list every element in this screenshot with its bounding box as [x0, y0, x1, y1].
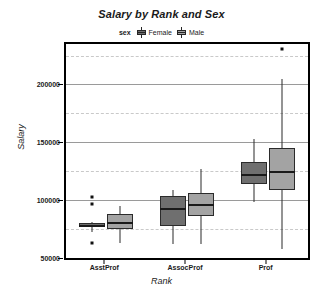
y-axis-tick-labels: 50000100000150000200000 [0, 42, 60, 260]
whisker-upper [281, 79, 282, 148]
whisker-lower [253, 184, 254, 203]
whisker-upper [201, 169, 202, 193]
y-tick-label: 150000 [4, 139, 60, 146]
y-tick-label: 200000 [4, 81, 60, 88]
legend-swatch-male [176, 27, 187, 38]
outlier-point [91, 241, 94, 244]
boxplot-female-assocprof [160, 44, 186, 258]
legend-title: sex [119, 29, 131, 36]
plot-panel [64, 42, 310, 260]
median-line [79, 225, 105, 227]
boxplot-male-prof [269, 44, 295, 258]
x-axis-tick-labels: AsstProfAssocProfProf [64, 264, 310, 276]
legend: sex Female Male [0, 27, 323, 38]
whisker-lower [173, 226, 174, 244]
boxplot-female-asstprof [79, 44, 105, 258]
boxplot-female-prof [241, 44, 267, 258]
legend-label-male: Male [189, 29, 204, 36]
median-line [107, 222, 133, 224]
median-line [269, 171, 295, 173]
whisker-lower [120, 229, 121, 243]
y-tick-label: 100000 [4, 197, 60, 204]
y-tick-mark [58, 142, 63, 143]
whisker-lower [92, 227, 93, 232]
legend-swatch-female [136, 27, 147, 38]
whisker-upper [253, 139, 254, 162]
plot-area [66, 44, 308, 258]
x-tick-label: Prof [259, 264, 273, 271]
median-line [160, 208, 186, 210]
chart-title: Salary by Rank and Sex [0, 8, 323, 20]
legend-entry-female[interactable]: Female [136, 27, 172, 38]
median-line [241, 174, 267, 176]
outlier-point [91, 202, 94, 205]
whisker-lower [201, 216, 202, 244]
outlier-point [280, 47, 283, 50]
boxplot-male-asstprof [107, 44, 133, 258]
whisker-upper [120, 206, 121, 214]
x-tick-label: AsstProf [90, 264, 119, 271]
y-tick-label: 50000 [4, 255, 60, 262]
y-tick-mark [58, 84, 63, 85]
gridline-major [66, 258, 308, 259]
x-tick-label: AssocProf [167, 264, 202, 271]
outlier-point [91, 195, 94, 198]
median-line [188, 204, 214, 206]
y-tick-mark [58, 258, 63, 259]
boxplot-chart: Salary by Rank and Sex sex Female Male S… [0, 0, 323, 290]
box [269, 148, 295, 190]
boxplot-male-assocprof [188, 44, 214, 258]
legend-entry-male[interactable]: Male [176, 27, 204, 38]
x-axis-title: Rank [0, 276, 323, 286]
y-tick-mark [58, 200, 63, 201]
box [160, 196, 186, 227]
legend-label-female: Female [149, 29, 172, 36]
whisker-lower [281, 190, 282, 249]
